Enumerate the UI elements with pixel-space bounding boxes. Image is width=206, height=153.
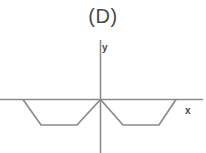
- figure-panel: (D) x y: [0, 0, 206, 153]
- function-curve: [23, 100, 176, 126]
- y-axis-label: y: [102, 42, 108, 53]
- x-axis-label: x: [185, 105, 191, 116]
- plot-area: x y: [0, 0, 206, 153]
